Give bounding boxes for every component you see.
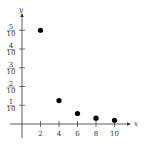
y-tick-denominator: 10 — [7, 87, 16, 95]
data-point — [75, 111, 80, 116]
data-point — [38, 28, 43, 33]
x-ticks: 246810 — [38, 121, 119, 138]
x-tick-label: 8 — [94, 130, 98, 138]
y-tick-denominator: 10 — [7, 30, 16, 38]
y-tick-denominator: 10 — [7, 49, 16, 57]
x-axis-label: x — [134, 120, 138, 128]
x-tick-label: 4 — [57, 130, 62, 138]
data-points — [38, 28, 117, 123]
data-point — [93, 116, 98, 121]
y-tick-denominator: 10 — [7, 105, 16, 113]
data-point — [56, 98, 61, 103]
x-tick-label: 2 — [38, 130, 42, 138]
y-axis-label: y — [18, 6, 24, 14]
data-point — [112, 118, 117, 123]
axes — [10, 14, 130, 138]
y-tick-denominator: 10 — [7, 68, 16, 76]
scatter-chart: x y 246810 110210310410510 — [0, 0, 148, 148]
x-tick-label: 6 — [75, 130, 80, 138]
x-tick-label: 10 — [110, 130, 119, 138]
